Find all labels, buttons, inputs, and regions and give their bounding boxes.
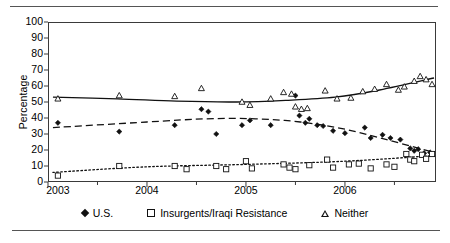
x-tick-label: 2003 [32,185,84,196]
legend-label: U.S. [93,207,113,219]
y-tick-label: 40 [17,112,43,122]
y-tick-label: 50 [17,96,43,106]
legend-item: Neither [321,207,368,219]
legend-item: U.S. [82,207,113,219]
x-tick-label: 2004 [121,185,173,196]
x-tick-label: 2005 [220,185,272,196]
plot-area [48,22,436,182]
y-tick-label: 60 [17,80,43,90]
y-tick-label: 100 [17,16,43,26]
chart-legend: U.S.Insurgents/Iraqi ResistanceNeither [0,203,450,223]
legend-item: Insurgents/Iraqi Resistance [147,207,287,219]
y-tick-label: 30 [17,128,43,138]
x-tick-label: 2006 [319,185,371,196]
y-tick-label: 80 [17,48,43,58]
y-tick-label: 70 [17,64,43,74]
y-tick-label: 10 [17,160,43,170]
legend-label: Insurgents/Iraqi Resistance [160,207,287,219]
chart-figure: Percentage 0102030405060708090100 200320… [0,0,450,243]
square-marker-icon [147,209,155,217]
y-tick-label: 20 [17,144,43,154]
diamond-marker-icon [80,209,88,217]
y-tick-label: 90 [17,32,43,42]
legend-label: Neither [334,207,368,219]
triangle-marker-icon [321,210,329,217]
